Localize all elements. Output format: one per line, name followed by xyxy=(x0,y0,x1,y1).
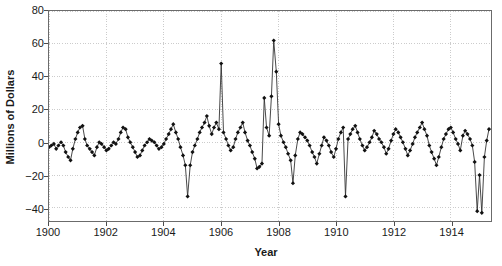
x-axis-label: Year xyxy=(40,246,492,258)
y-tick-label: 40 xyxy=(4,71,44,81)
x-tick-label: 1914 xyxy=(429,226,475,238)
x-tick-label: 1912 xyxy=(371,226,417,238)
y-tick-label: 0 xyxy=(4,138,44,148)
plot-area xyxy=(48,10,492,222)
y-tick-label: 20 xyxy=(4,104,44,114)
x-tick-label: 1908 xyxy=(256,226,302,238)
y-tick-label: 60 xyxy=(4,38,44,48)
x-tick-label: 1910 xyxy=(313,226,359,238)
x-tick-label: 1904 xyxy=(140,226,186,238)
y-axis-tick-labels: 806040200−20−40 xyxy=(0,10,44,222)
y-tick-label: −40 xyxy=(4,204,44,214)
data-series-line xyxy=(49,11,491,221)
x-axis-tick-labels: 19001902190419061908191019121914 xyxy=(48,226,492,242)
chart-figure: Millions of Dollars 806040200−20−40 1900… xyxy=(0,0,502,266)
x-tick-label: 1900 xyxy=(25,226,71,238)
x-tick-label: 1906 xyxy=(198,226,244,238)
x-tick-label: 1902 xyxy=(83,226,129,238)
y-tick-label: −20 xyxy=(4,171,44,181)
y-tick-label: 80 xyxy=(4,5,44,15)
